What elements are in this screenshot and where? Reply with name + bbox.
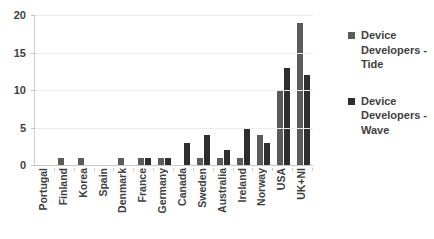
- x-tick-label: USA: [276, 168, 287, 190]
- y-tick-mark: [31, 53, 35, 54]
- bar-wave: [284, 68, 290, 166]
- bar-tide: [217, 158, 223, 166]
- bar-tide: [58, 158, 64, 166]
- x-tick-label: France: [137, 168, 148, 202]
- x-tick-label: Denmark: [117, 168, 128, 213]
- legend-label-wave: Device Developers - Wave: [361, 94, 434, 138]
- x-tick-mark: [133, 168, 134, 171]
- y-tick-label: 5: [20, 122, 26, 133]
- x-tick-mark: [292, 168, 293, 171]
- bar-tide: [197, 158, 203, 166]
- x-tick-mark: [312, 168, 313, 171]
- x-tick-label: UK+NI: [296, 168, 307, 200]
- bar-chart: 05101520 PortugalFinlandKoreaSpainDenmar…: [0, 0, 434, 239]
- gridline: [35, 53, 313, 54]
- y-tick-mark: [31, 128, 35, 129]
- y-tick-mark: [31, 90, 35, 91]
- legend-swatch-icon-wave: [348, 98, 355, 105]
- x-tick-mark: [233, 168, 234, 171]
- bar-wave: [145, 158, 151, 166]
- bar-tide: [257, 135, 263, 165]
- x-tick-label: Canada: [177, 168, 188, 206]
- x-tick-label: Portugal: [38, 168, 49, 211]
- bar-wave: [264, 143, 270, 166]
- x-tick-label: Australia: [217, 168, 228, 213]
- plot-area: [34, 15, 313, 166]
- y-axis: 05101520: [0, 0, 30, 165]
- x-tick-label: Norway: [256, 168, 267, 206]
- x-tick-label: Ireland: [237, 168, 248, 202]
- x-tick-mark: [173, 168, 174, 171]
- plot-wrapper: 05101520 PortugalFinlandKoreaSpainDenmar…: [0, 0, 320, 239]
- bar-wave: [224, 150, 230, 165]
- bar-wave: [244, 128, 250, 166]
- bar-wave: [304, 75, 310, 165]
- legend-swatch-icon-tide: [348, 32, 355, 39]
- x-tick-mark: [252, 168, 253, 171]
- bar-wave: [184, 143, 190, 166]
- x-tick-mark: [153, 168, 154, 171]
- bar-tide: [138, 158, 144, 166]
- x-tick-mark: [94, 168, 95, 171]
- legend-entry-wave: Device Developers - Wave: [348, 94, 434, 138]
- y-tick-label: 20: [14, 10, 26, 21]
- bar-wave: [204, 135, 210, 165]
- x-tick-label: Sweden: [197, 168, 208, 208]
- gridline: [35, 15, 313, 16]
- x-tick-mark: [193, 168, 194, 171]
- x-tick-mark: [54, 168, 55, 171]
- x-tick-mark: [272, 168, 273, 171]
- x-tick-label: Finland: [58, 168, 69, 205]
- x-tick-label: Germany: [157, 168, 168, 214]
- bar-tide: [297, 23, 303, 166]
- gridline: [35, 128, 313, 129]
- chart-legend: Device Developers - Tide Device Develope…: [348, 28, 434, 159]
- legend-entry-tide: Device Developers - Tide: [348, 28, 434, 72]
- bar-tide: [118, 158, 124, 166]
- x-axis: PortugalFinlandKoreaSpainDenmarkFranceGe…: [34, 168, 312, 239]
- y-tick-label: 15: [14, 47, 26, 58]
- x-tick-mark: [213, 168, 214, 171]
- y-tick-mark: [31, 15, 35, 16]
- y-tick-label: 0: [20, 160, 26, 171]
- legend-label-tide: Device Developers - Tide: [361, 28, 434, 72]
- gridline: [35, 90, 313, 91]
- x-tick-mark: [113, 168, 114, 171]
- bar-tide: [78, 158, 84, 166]
- x-tick-label: Korea: [78, 168, 89, 198]
- bar-tide: [237, 158, 243, 166]
- bar-tide: [158, 158, 164, 166]
- x-tick-label: Spain: [98, 168, 109, 197]
- y-tick-label: 10: [14, 85, 26, 96]
- y-tick-mark: [31, 165, 35, 166]
- bar-wave: [165, 158, 171, 166]
- x-tick-mark: [74, 168, 75, 171]
- gridline: [35, 165, 313, 166]
